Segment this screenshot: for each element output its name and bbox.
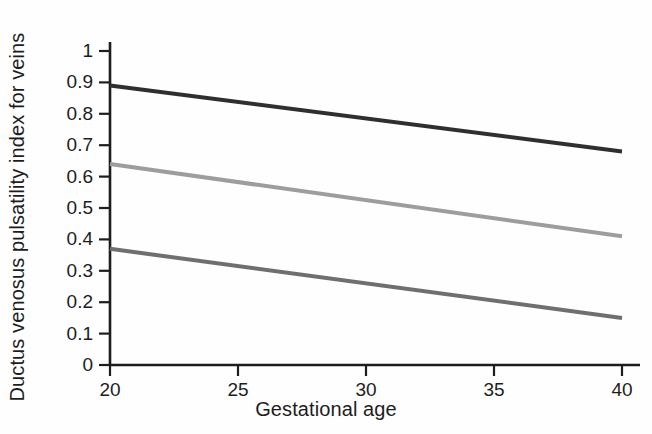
middle-reference-line: [110, 164, 622, 236]
plot-area: [0, 0, 652, 434]
axis-lines: [110, 42, 640, 365]
lower-reference-line: [110, 249, 622, 318]
y-axis-tick-label: 0: [82, 354, 93, 376]
y-axis-tick-label: 0.5: [67, 197, 93, 219]
y-axis-tick-label: 0.1: [67, 323, 93, 345]
y-axis-title: Ductus venosus pulsatility index for vei…: [0, 0, 34, 434]
y-axis-tick-label: 0.9: [67, 71, 93, 93]
y-axis-tick-label: 0.6: [67, 166, 93, 188]
y-axis-tick-label: 0.8: [67, 103, 93, 125]
y-axis-tick-label: 0.2: [67, 291, 93, 313]
upper-reference-line: [110, 86, 622, 152]
chart-figure: 00.10.20.30.40.50.60.70.80.91 2025303540…: [0, 0, 652, 434]
y-axis-tick-label: 0.4: [67, 228, 93, 250]
data-series-lines: [110, 86, 622, 318]
y-axis-tick-label: 0.7: [67, 134, 93, 156]
x-axis-title: Gestational age: [0, 398, 652, 421]
y-axis-tick-label: 1: [82, 40, 93, 62]
tick-marks: [99, 51, 622, 376]
y-axis-tick-label: 0.3: [67, 260, 93, 282]
